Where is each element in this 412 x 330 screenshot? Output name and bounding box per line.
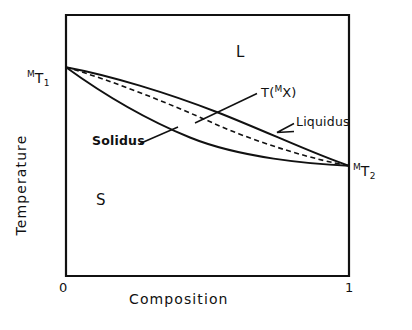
tie-line-label: T(MX) xyxy=(261,85,297,99)
y-axis-title: Temperature xyxy=(14,133,28,237)
melting-point-t1-superscript: M xyxy=(27,69,35,79)
melting-point-t2-label: MT2 xyxy=(353,163,375,181)
x-axis-tick-label-0: 0 xyxy=(59,281,68,294)
melting-point-t2-subscript: 2 xyxy=(370,171,376,181)
melting-point-t2-base: T xyxy=(361,163,370,179)
tie-line-label-suffix: X) xyxy=(282,85,296,100)
melting-point-t1-label: MT1 xyxy=(27,70,49,88)
tie-line-label-prefix: T( xyxy=(261,85,274,100)
solidus-label: Solidus xyxy=(92,135,145,148)
x-axis-title: Composition xyxy=(129,292,229,306)
liquidus-label: Liquidus xyxy=(296,116,350,129)
melting-point-t2-superscript: M xyxy=(353,162,361,172)
phase-diagram-figure: Temperature Composition 0 1 MT1 MT2 L S … xyxy=(0,0,412,330)
solid-region-label: S xyxy=(96,193,106,208)
x-axis-tick-label-1: 1 xyxy=(345,281,354,294)
melting-point-t1-base: T xyxy=(35,70,44,86)
melting-point-t1-subscript: 1 xyxy=(44,78,50,88)
liquid-region-label: L xyxy=(236,45,245,60)
